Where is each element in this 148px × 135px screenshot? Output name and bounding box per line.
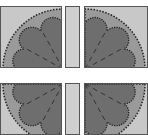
quarter-disc-graphic xyxy=(1,7,62,68)
quarter-disc-graphic xyxy=(85,7,148,68)
quarter-disc-graphic xyxy=(85,84,148,135)
tile-top-left xyxy=(0,6,62,68)
quarter-disc-graphic xyxy=(1,84,62,135)
tile-bottom-right xyxy=(84,83,148,135)
center-strip-top xyxy=(65,6,80,68)
tile-bottom-left xyxy=(0,83,62,135)
center-strip-bottom xyxy=(65,83,80,135)
tile-top-right xyxy=(84,6,148,68)
